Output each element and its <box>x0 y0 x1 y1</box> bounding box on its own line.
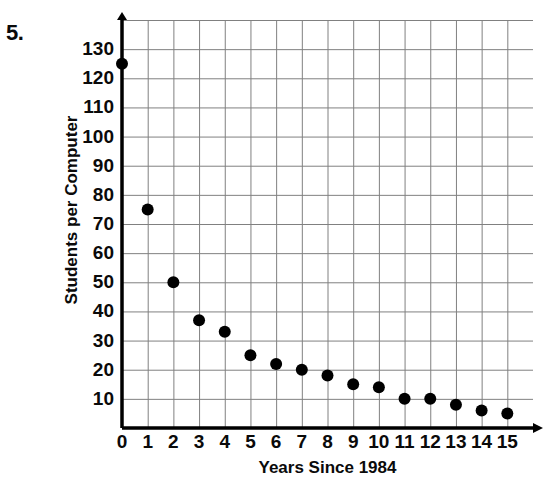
x-axis-title: Years Since 1984 <box>122 458 533 478</box>
x-axis-tick-labels: 0123456789101112131415 <box>0 0 549 488</box>
worksheet-problem-figure: 5. Students per Computer 130120110100908… <box>0 0 549 488</box>
x-axis-tick-label: 15 <box>492 432 522 451</box>
